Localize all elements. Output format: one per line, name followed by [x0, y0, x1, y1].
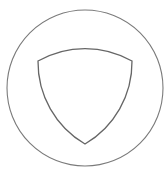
geometry-figure [0, 0, 168, 174]
reuleaux-triangle-shape [38, 49, 132, 144]
diagram-canvas [0, 0, 168, 174]
outer-circle [7, 10, 163, 166]
